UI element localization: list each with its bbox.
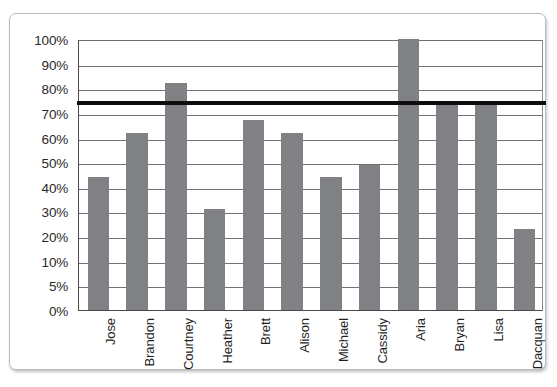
- bar-lisa: [475, 103, 497, 310]
- bar-dacquan: [514, 229, 536, 310]
- x-tick-label-michael: Michael: [336, 318, 351, 362]
- y-tick-label: 20%: [42, 230, 68, 245]
- bar-series: [79, 41, 542, 310]
- y-tick-label: 40%: [42, 180, 68, 195]
- chart-frame: 100%90%80%70%60%50%40%30%20%10%5%0% Jose…: [9, 13, 546, 370]
- bar-cassidy: [359, 165, 381, 310]
- bar-aria: [398, 39, 420, 310]
- y-tick-label: 80%: [42, 82, 68, 97]
- bar-brett: [243, 120, 265, 310]
- y-tick-label: 0%: [49, 304, 68, 319]
- x-tick-label-bryan: Bryan: [452, 318, 467, 351]
- x-tick-label-jose: Jose: [103, 318, 118, 345]
- bar-bryan: [436, 103, 458, 310]
- y-axis-tick-labels: 100%90%80%70%60%50%40%30%20%10%5%0%: [10, 40, 72, 311]
- y-tick-label: 60%: [42, 131, 68, 146]
- x-axis-category-labels: JoseBrandonCourtneyHeatherBrettAlisonMic…: [78, 314, 543, 387]
- bar-brandon: [126, 133, 148, 310]
- y-tick-label: 70%: [42, 106, 68, 121]
- x-tick-label-cassidy: Cassidy: [375, 318, 390, 364]
- plot-area: [78, 40, 543, 311]
- bar-chart-figure: 100%90%80%70%60%50%40%30%20%10%5%0% Jose…: [0, 0, 557, 387]
- bar-jose: [88, 177, 110, 310]
- x-tick-label-brett: Brett: [258, 318, 273, 345]
- x-tick-label-aria: Aria: [413, 318, 428, 341]
- bar-courtney: [165, 83, 187, 310]
- x-tick-label-lisa: Lisa: [491, 318, 506, 341]
- bar-michael: [320, 177, 342, 310]
- x-tick-label-dacquan: Dacquan: [530, 318, 545, 369]
- bar-heather: [204, 209, 226, 310]
- y-tick-label: 5%: [49, 279, 68, 294]
- threshold-line: [77, 101, 546, 105]
- y-tick-label: 30%: [42, 205, 68, 220]
- x-tick-label-alison: Alison: [297, 318, 312, 353]
- y-tick-label: 100%: [34, 33, 68, 48]
- y-tick-label: 10%: [42, 254, 68, 269]
- x-tick-label-brandon: Brandon: [142, 318, 157, 366]
- y-tick-label: 50%: [42, 156, 68, 171]
- x-tick-label-heather: Heather: [220, 318, 235, 364]
- bar-alison: [281, 133, 303, 310]
- x-tick-label-courtney: Courtney: [181, 318, 196, 370]
- y-tick-label: 90%: [42, 57, 68, 72]
